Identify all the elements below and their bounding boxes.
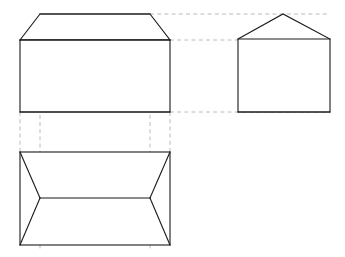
view-front-elevation <box>20 14 170 112</box>
side-pentagon-outline <box>238 14 330 112</box>
view-top-plan <box>20 152 170 245</box>
drawing-sheet <box>0 0 345 257</box>
orthographic-projection-drawing <box>0 0 345 257</box>
view-side-elevation <box>238 14 330 112</box>
front-roof-trapezoid <box>20 14 170 40</box>
front-body-rectangle <box>20 40 170 112</box>
